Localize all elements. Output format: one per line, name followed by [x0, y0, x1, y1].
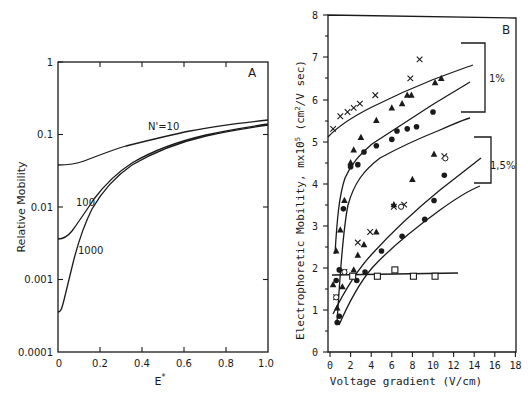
marker-filled-circle: [341, 206, 347, 212]
panel-b-fit-curves: [328, 65, 481, 325]
panel-a-xticks: [100, 62, 226, 352]
panel-a-xtick-label: 0: [56, 358, 62, 369]
marker-open-circle: [398, 204, 403, 209]
panel-b-xticks: [330, 352, 515, 357]
marker-filled-triangle: [399, 100, 406, 106]
marker-cross: [367, 229, 373, 235]
panel-a-ytick-label: 0.001: [24, 274, 53, 285]
marker-filled-triangle: [333, 247, 340, 253]
bracket-1pct-label: 1%: [489, 73, 505, 84]
panel-a-ytick-label: 0.1: [37, 129, 53, 140]
bracket-15pct: [474, 137, 491, 183]
panel-b-ytick-label: 5: [312, 137, 318, 148]
marker-filled-triangle: [409, 176, 416, 182]
marker-filled-triangle: [408, 92, 415, 98]
marker-filled-circle: [379, 248, 385, 254]
panel-b-ytick-label: 1: [312, 305, 318, 316]
panel-b-markers: [330, 57, 448, 326]
marker-filled-triangle: [355, 252, 362, 258]
marker-filled-circle: [404, 126, 410, 132]
panel-b-xtick-label: 16: [489, 360, 501, 371]
panel-a-xtick-label: 0.2: [92, 358, 108, 369]
panel-b-xtick-label: 10: [427, 360, 439, 371]
marker-filled-circle: [389, 137, 395, 143]
panel-a-xtick-label: 1.0: [258, 358, 274, 369]
marker-filled-circle: [414, 124, 420, 130]
curve-label-n1000: 1000: [78, 245, 103, 256]
marker-open-square: [432, 273, 438, 279]
marker-filled-circle: [431, 198, 437, 204]
panel-b-ytick-label: 4: [312, 179, 318, 190]
marker-filled-triangle: [373, 117, 380, 123]
marker-filled-circle: [442, 172, 448, 178]
curve-n1000: [58, 125, 268, 312]
panel-a: 1 0.1 0.01 0.001 0.0001 0 0.2 0.4 0.6 0.…: [15, 57, 274, 388]
panel-b-xtick-label: 12: [448, 360, 460, 371]
panel-b-ytick-label: 3: [312, 221, 318, 232]
marker-filled-circle: [355, 162, 361, 168]
marker-filled-circle: [336, 267, 342, 273]
marker-filled-circle: [348, 164, 354, 170]
marker-filled-triangle: [389, 104, 396, 110]
marker-filled-circle: [430, 109, 436, 115]
marker-open-square: [410, 273, 416, 279]
marker-filled-circle: [422, 217, 428, 223]
fit-1pct-triangles: [335, 82, 470, 254]
marker-cross: [357, 101, 363, 107]
panel-a-ytick-label: 0.0001: [18, 347, 53, 358]
marker-filled-circle: [374, 143, 380, 149]
marker-cross: [351, 105, 357, 111]
panel-b-ytick-label: 2: [312, 263, 318, 274]
panel-b-xtick-label: 6: [389, 360, 395, 371]
marker-filled-triangle: [358, 134, 365, 140]
marker-filled-triangle: [431, 151, 438, 157]
marker-cross: [345, 109, 351, 115]
panel-b: 0 1 2 3 4 5 6 7 8 0 2 4 6 8 10 12 14 16 …: [294, 10, 521, 388]
marker-cross: [355, 240, 361, 246]
panel-a-xtick-label: 0.8: [218, 358, 234, 369]
panel-b-ytick-label: 8: [312, 10, 318, 21]
panel-b-xtick-label: 8: [409, 360, 415, 371]
panel-a-xtick-label: 0.6: [176, 358, 192, 369]
figure: 1 0.1 0.01 0.001 0.0001 0 0.2 0.4 0.6 0.…: [0, 0, 530, 398]
bracket-15pct-label: 1,5%: [490, 160, 515, 171]
panel-a-ylabel: Relative Mobility: [15, 161, 28, 253]
marker-filled-circle: [334, 320, 340, 326]
panel-b-ylabel: Electrophoretic Mobility, mx105 (cm2/V s…: [294, 60, 307, 340]
marker-filled-circle: [362, 269, 368, 275]
panel-b-ytick-label: 6: [312, 95, 318, 106]
marker-filled-circle: [361, 149, 367, 155]
panel-b-xlabel: Voltage gradient (V/cm): [330, 375, 482, 388]
panel-b-xtick-label: 18: [509, 360, 521, 371]
panel-b-xtick-label: 0: [327, 360, 333, 371]
marker-filled-triangle: [337, 226, 344, 232]
marker-open-square: [350, 273, 356, 279]
marker-cross: [373, 92, 379, 98]
marker-filled-triangle: [361, 241, 368, 247]
marker-filled-circle: [399, 233, 405, 239]
fit-1pct-circles: [337, 118, 470, 322]
curve-label-n10: N'=10: [148, 121, 179, 132]
bracket-1pct: [461, 43, 485, 112]
curve-label-n100: 100: [76, 197, 95, 208]
curve-n100: [58, 124, 268, 239]
marker-filled-triangle: [350, 146, 357, 152]
panel-b-ytick-label: 7: [312, 52, 318, 63]
panel-a-xlabel: E*: [155, 373, 166, 388]
marker-filled-triangle: [350, 266, 357, 272]
marker-cross: [338, 113, 344, 119]
marker-open-circle: [342, 269, 347, 274]
panel-b-xtick-label: 4: [368, 360, 374, 371]
marker-open-circle: [443, 156, 448, 161]
panel-a-ytick-label: 0.01: [31, 202, 53, 213]
panel-b-letter: B: [502, 23, 510, 37]
panel-a-ytick-label: 1: [47, 57, 53, 68]
marker-cross: [330, 126, 336, 132]
panel-b-ytick-label: 0: [312, 347, 318, 358]
marker-filled-circle: [336, 313, 342, 319]
marker-filled-triangle: [341, 197, 348, 203]
fit-15pct-circles: [339, 186, 480, 325]
panel-a-xtick-label: 0.4: [134, 358, 150, 369]
panel-b-xtick-label: 2: [348, 360, 354, 371]
marker-filled-triangle: [373, 228, 380, 234]
